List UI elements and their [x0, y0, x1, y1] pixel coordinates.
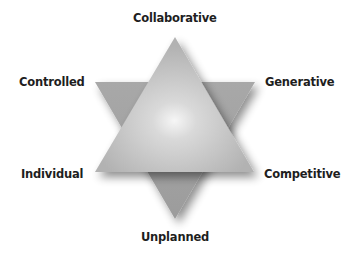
label-controlled: Controlled: [19, 75, 83, 89]
label-individual: Individual: [21, 167, 83, 181]
star-graphic: [0, 0, 352, 256]
label-unplanned: Unplanned: [136, 230, 214, 244]
hexagram-diagram: Collaborative Controlled Generative Indi…: [0, 0, 352, 256]
label-collaborative: Collaborative: [133, 11, 215, 25]
label-competitive: Competitive: [264, 167, 339, 181]
label-generative: Generative: [265, 75, 335, 89]
